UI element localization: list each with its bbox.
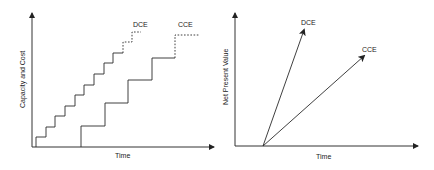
cce-label-right: CCE — [362, 46, 377, 53]
right-chart: DCE CCE Time Net Present Value — [222, 13, 418, 160]
dce-staircase-projected — [123, 32, 141, 53]
right-y-label: Net Present Value — [222, 49, 229, 105]
dce-npv-arrow — [263, 30, 304, 146]
left-chart: DCE CCE Time Capacity and Cost — [19, 13, 214, 159]
dce-label-left: DCE — [133, 21, 148, 28]
dce-staircase — [36, 53, 123, 147]
diagram-canvas: DCE CCE Time Capacity and Cost DCE CCE T… — [0, 0, 434, 170]
cce-staircase-projected — [175, 35, 200, 58]
right-x-label: Time — [316, 153, 331, 160]
cce-label-left: CCE — [178, 21, 193, 28]
cce-npv-arrow — [263, 56, 364, 146]
dce-label-right: DCE — [301, 19, 316, 26]
left-x-label: Time — [115, 152, 130, 159]
cce-staircase — [81, 58, 175, 147]
left-y-label: Capacity and Cost — [19, 51, 27, 108]
